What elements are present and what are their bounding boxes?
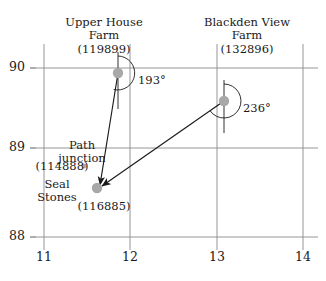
vector-blackden-to-seal-stones: [102, 101, 224, 186]
ytick-label-89: 89: [9, 140, 25, 154]
label-upper-house-farm-coord: (119899): [78, 43, 131, 55]
label-seal-stones-line1: Seal: [44, 178, 69, 190]
ytick-label-88: 88: [9, 229, 25, 243]
label-upper-house-farm-line2: Farm: [89, 29, 119, 41]
xtick-label-12: 12: [122, 250, 138, 264]
xtick-label-13: 13: [209, 250, 225, 264]
label-blackden-view-farm-coord: (132896): [221, 43, 274, 55]
marker-seal-stones: [92, 183, 102, 193]
bearing-label-193: 193°: [138, 74, 166, 86]
xtick-label-14: 14: [295, 250, 311, 264]
axis-ticks: [30, 68, 36, 237]
label-seal-stones-line2: Stones: [37, 191, 77, 203]
label-seal-stones-coord: (116885): [78, 200, 131, 212]
map-canvas: [0, 0, 326, 281]
xtick-label-11: 11: [36, 250, 52, 264]
label-path-junction-line1: Path: [69, 139, 95, 151]
label-upper-house-farm-line1: Upper House: [65, 16, 142, 28]
bearing-label-236: 236°: [243, 102, 271, 114]
label-path-junction-coord: (114888): [36, 160, 89, 172]
bearing-arc-blackden: [210, 80, 241, 133]
ytick-label-90: 90: [9, 60, 25, 74]
marker-upper-house-farm: [113, 68, 123, 78]
label-blackden-view-farm-line1: Blackden View: [204, 16, 290, 28]
label-blackden-view-farm-line2: Farm: [232, 29, 262, 41]
bearing-map-figure: 90 89 88 11 12 13 14 Upper House Farm (1…: [0, 0, 326, 281]
marker-blackden-view-farm: [219, 96, 229, 106]
